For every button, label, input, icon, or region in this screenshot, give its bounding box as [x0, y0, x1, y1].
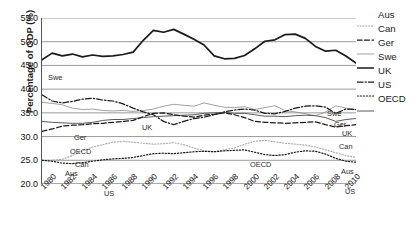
series-line-swe — [42, 29, 356, 63]
y-tick-50-0: 50.0 — [4, 37, 38, 46]
y-axis-tick-labels: 55.050.045.040.035.030.025.020.0 — [2, 0, 38, 231]
y-tick-25-0: 25.0 — [4, 156, 38, 165]
legend-item-aus[interactable]: Aus — [357, 8, 418, 22]
legend-key-can-icon — [357, 28, 374, 30]
legend-label-us: US — [378, 79, 391, 91]
chart-canvas — [42, 18, 356, 184]
inline-label-oecd-7: OECD — [250, 161, 271, 169]
legend-label-swe: Swe — [378, 51, 397, 63]
legend-item-uk[interactable]: UK — [357, 64, 418, 78]
legend-key-swe-icon — [357, 56, 374, 58]
legend-label-oecd: OECD — [378, 93, 406, 105]
y-tick-35-0: 35.0 — [4, 108, 38, 117]
legend-key-ger-icon — [357, 42, 374, 44]
inline-label-ger-2: Ger — [74, 134, 86, 142]
legend-key-us-icon — [357, 84, 374, 86]
inline-label-swe-0: Swe — [48, 74, 62, 82]
legend-item-oecd[interactable]: OECD — [357, 93, 418, 107]
series-line-uk — [42, 95, 356, 125]
inline-label-swe-1: Swe — [327, 110, 341, 118]
inline-label-can-9: Can — [339, 143, 353, 151]
legend-key-oecd-icon — [357, 99, 374, 101]
legend-key-uk-icon — [357, 70, 374, 72]
chart-legend: AusCanGerSweUKUSOECD — [357, 8, 418, 107]
x-axis-tick-labels: 1980198219841986198819901992199419961998… — [41, 185, 355, 231]
plot-area: SweSweGerGerUKUKOECDOECDCanCanAusAusUSUS — [41, 18, 355, 184]
legend-label-uk: UK — [378, 65, 391, 77]
legend-item-us[interactable]: US — [357, 78, 418, 92]
y-tick-55-0: 55.0 — [4, 14, 38, 23]
legend-key-aus-icon — [357, 14, 374, 16]
y-tick-40-0: 40.0 — [4, 85, 38, 94]
inline-label-oecd-6: OECD — [70, 148, 91, 156]
legend-label-ger: Ger — [378, 37, 394, 49]
legend-label-aus: Aus — [378, 9, 395, 21]
legend-item-ger[interactable]: Ger — [357, 36, 418, 50]
legend-item-can[interactable]: Can — [357, 22, 418, 36]
legend-label-can: Can — [378, 23, 396, 35]
inline-label-ger-3: Ger — [334, 121, 346, 129]
y-tick-30-0: 30.0 — [4, 132, 38, 141]
inline-label-can-8: Can — [75, 161, 89, 169]
chart-root: Percentage of GDP (%) 55.050.045.040.035… — [0, 0, 418, 231]
y-tick-45-0: 45.0 — [4, 61, 38, 70]
y-tick-20-0: 20.0 — [4, 180, 38, 189]
inline-label-uk-5: UK — [342, 130, 352, 138]
inline-label-uk-4: UK — [142, 124, 152, 132]
legend-item-swe[interactable]: Swe — [357, 50, 418, 64]
